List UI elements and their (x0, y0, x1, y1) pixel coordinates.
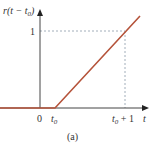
y-axis-arrow-icon (37, 9, 43, 16)
ramp-function-diagram: r(t − t0) 1 0 t0 t0 + 1 t (a) (0, 0, 151, 146)
x-tick-origin: 0 (37, 113, 42, 124)
x-axis-arrow-icon (142, 105, 149, 111)
x-tick-t0: t0 (51, 113, 58, 126)
x-axis-label: t (143, 113, 146, 124)
x-tick-t0-plus-1: t0 + 1 (112, 113, 134, 126)
y-tick-one: 1 (30, 26, 35, 37)
y-axis-label: r(t − t0) (3, 5, 35, 18)
figure-caption: (a) (67, 131, 78, 143)
ramp-line (0, 16, 140, 108)
